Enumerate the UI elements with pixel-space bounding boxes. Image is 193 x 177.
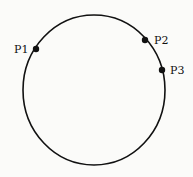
diagram-canvas: P1 P2 P3 (0, 0, 193, 177)
point-p1-dot (33, 46, 39, 52)
point-p2-label: P2 (154, 34, 168, 47)
point-p1-label: P1 (14, 43, 28, 56)
circle-diagram: P1 P2 P3 (0, 0, 193, 177)
point-p2-dot (142, 37, 148, 43)
point-p3-dot (159, 67, 165, 73)
point-p3-label: P3 (170, 64, 184, 77)
